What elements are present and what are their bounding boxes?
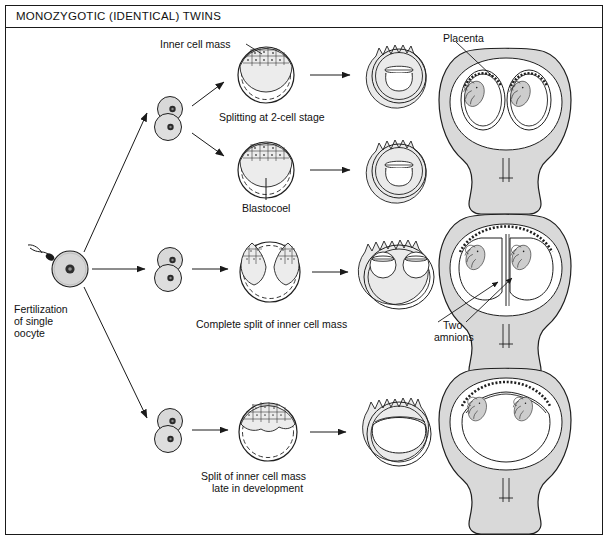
branch-arrow-top xyxy=(84,113,147,252)
label-two-amnions-line2: amnions xyxy=(434,331,474,344)
label-two-amnions-line1: Two xyxy=(443,319,462,332)
blastocyst-top-lower xyxy=(238,142,294,200)
label-fertilization-line3: oocyte xyxy=(14,327,45,340)
two-cell-embryo-middle xyxy=(155,248,183,292)
split-arrow-top-upper xyxy=(192,82,224,106)
two-cell-embryo-bottom xyxy=(155,409,183,453)
chorionic-sac-top-upper xyxy=(366,45,426,108)
label-blastocoel: Blastocoel xyxy=(242,202,290,215)
label-inner-cell-mass: Inner cell mass xyxy=(160,38,231,51)
single-amnion-bottom xyxy=(363,398,431,466)
amnion-right-middle xyxy=(403,252,429,278)
chorionic-sac-top-lower xyxy=(366,140,426,203)
diagram-page: MONOZYGOTIC (IDENTICAL) TWINS xyxy=(0,0,610,542)
blastocyst-middle-split-icm xyxy=(240,242,300,302)
fertilized-oocyte xyxy=(28,245,88,287)
diagram-canvas xyxy=(0,0,610,542)
blastocyst-bottom-late-split xyxy=(239,402,297,461)
uterus-bottom xyxy=(439,368,571,534)
label-splitting-two-cell-stage: Splitting at 2-cell stage xyxy=(219,111,325,124)
label-placenta: Placenta xyxy=(443,32,484,45)
label-late-split-line1: Split of inner cell mass xyxy=(201,470,306,483)
amnion-left-middle xyxy=(370,252,396,278)
label-fertilization-line1: Fertilization xyxy=(14,303,68,316)
split-arrow-top-lower xyxy=(192,133,224,156)
blastocyst-top-upper xyxy=(238,47,294,103)
label-late-split-line2: late in development xyxy=(212,482,303,495)
uterus-middle xyxy=(439,214,571,380)
chorion-two-amnions-middle xyxy=(358,240,434,309)
branch-arrow-bottom xyxy=(84,287,147,418)
label-complete-split: Complete split of inner cell mass xyxy=(196,318,347,331)
embryo-disc-top-lower xyxy=(385,161,413,186)
embryo-disc-top-upper xyxy=(385,66,413,91)
label-fertilization-line2: of single xyxy=(14,315,53,328)
uterus-top xyxy=(439,48,571,214)
two-cell-embryo-top xyxy=(155,97,183,141)
